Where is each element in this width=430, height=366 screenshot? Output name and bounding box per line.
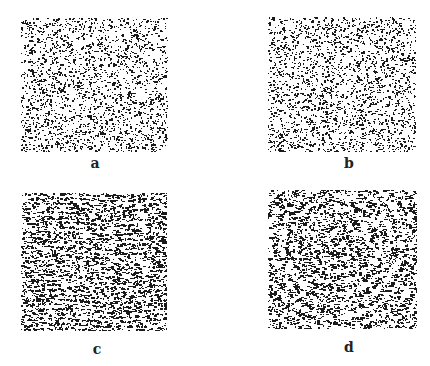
panel-a [21, 18, 168, 152]
dot-pattern-b [268, 17, 416, 152]
panel-c [21, 193, 167, 331]
panel-label-d: d [339, 339, 359, 355]
panel-label-b: b [339, 155, 359, 171]
dot-pattern-a [21, 18, 168, 152]
panel-d [268, 190, 417, 329]
panel-label-c: c [87, 341, 107, 357]
dot-pattern-d [268, 190, 417, 329]
panel-label-a: a [85, 155, 105, 171]
dot-pattern-c [21, 193, 167, 331]
panel-b [268, 17, 416, 152]
